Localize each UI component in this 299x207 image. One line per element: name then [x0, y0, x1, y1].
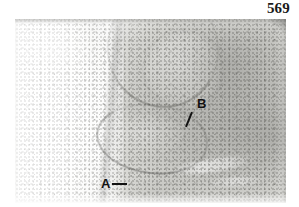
label-a: A	[101, 177, 110, 190]
print-edge-top	[15, 19, 286, 24]
print-edge-bottom	[15, 194, 286, 203]
label-b: B	[197, 97, 206, 110]
leader-line-a	[112, 183, 127, 185]
photomicrograph-figure: B A	[15, 19, 286, 203]
textbook-page: 569 B A	[0, 0, 299, 207]
print-edge-right	[280, 19, 286, 203]
print-corner-top-right	[270, 19, 286, 31]
page-number: 569	[267, 1, 290, 16]
print-vignette	[15, 19, 286, 203]
